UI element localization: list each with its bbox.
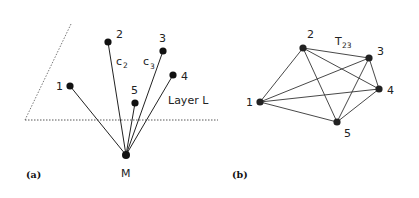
node-a-1 [66, 82, 73, 89]
node-m [122, 151, 130, 159]
label-b-4: 4 [387, 84, 394, 97]
node-b-5 [333, 118, 340, 125]
label-m: M [121, 167, 131, 180]
node-b-1 [256, 98, 263, 105]
layer-boundary-slanted [25, 24, 71, 120]
edge-m-1 [70, 86, 126, 155]
node-a-3 [159, 47, 166, 54]
edge-1-5 [260, 102, 337, 122]
edge-label-c3: c [143, 55, 149, 68]
edge-1-4 [260, 89, 379, 102]
edge-label-c2: c [116, 55, 122, 68]
edge-1-2 [260, 48, 303, 102]
edge-3-5 [337, 58, 369, 122]
diagram-canvas: 1 2 3 4 5 M c 2 c 3 Layer L (a) 1 2 3 4 … [0, 0, 419, 198]
node-b-3 [365, 54, 372, 61]
edge-2-5 [303, 48, 337, 122]
label-b-1: 1 [246, 96, 253, 109]
edge-1-3 [260, 58, 369, 102]
node-b-2 [299, 44, 306, 51]
node-a-4 [169, 71, 176, 78]
caption-a: (a) [26, 169, 41, 180]
node-b-4 [375, 85, 382, 92]
panel-b [260, 48, 379, 122]
edge-label-t23: T [334, 35, 342, 48]
label-a-3: 3 [159, 32, 166, 45]
label-b-3: 3 [377, 45, 384, 58]
edge-label-t23-sub: 23 [342, 41, 352, 50]
panel-a: 1 2 3 4 5 M c 2 c 3 Layer L (a) [25, 24, 218, 180]
caption-b: (b) [232, 169, 248, 180]
edge-label-c2-sub: 2 [123, 61, 128, 70]
edge-label-c3-sub: 3 [150, 62, 155, 71]
layer-label: Layer L [168, 94, 209, 107]
label-a-1: 1 [56, 80, 63, 93]
label-a-4: 4 [181, 70, 188, 83]
panel-b-nodes: 1 2 3 4 5 T 23 (b) [232, 28, 394, 180]
label-b-5: 5 [344, 127, 351, 140]
label-a-5: 5 [131, 84, 138, 97]
node-a-2 [104, 38, 111, 45]
node-a-5 [131, 99, 138, 106]
edge-4-5 [337, 89, 379, 122]
label-b-2: 2 [307, 28, 314, 41]
label-a-2: 2 [116, 28, 123, 41]
